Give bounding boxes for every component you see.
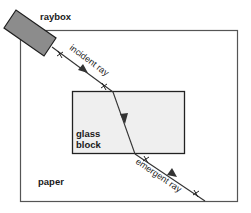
glass-block-label-line2: block bbox=[76, 139, 102, 150]
paper-label: paper bbox=[38, 176, 64, 187]
glass-block-label-line1: glass bbox=[76, 128, 100, 139]
raybox-label: raybox bbox=[40, 11, 72, 22]
refraction-diagram: raybox incident ray glass block emergent… bbox=[0, 0, 251, 213]
